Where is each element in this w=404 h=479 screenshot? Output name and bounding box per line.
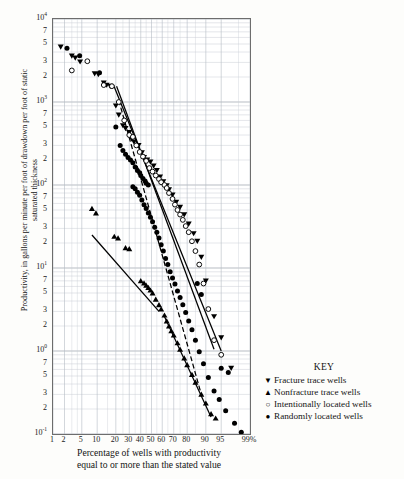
legend: KEY ▼Fracture trace wells▲Nonfracture tr…: [262, 362, 402, 423]
data-point: [201, 281, 206, 286]
legend-item-label: Nonfracture trace wells: [274, 387, 360, 398]
data-point: [109, 84, 114, 89]
legend-title: KEY: [268, 362, 380, 372]
data-point: [219, 352, 224, 357]
data-point: [172, 282, 177, 287]
data-point: [186, 318, 191, 323]
data-point: [118, 143, 123, 148]
x-axis-tick-labels: 1251020304050607080909599%: [52, 435, 249, 447]
data-point: [218, 335, 224, 340]
y-tick-label: 7: [43, 276, 47, 284]
y-tick-label: 5: [43, 39, 47, 47]
data-point: [211, 314, 217, 319]
data-point: [170, 275, 175, 280]
data-point: [189, 327, 194, 332]
data-point: [144, 159, 149, 164]
data-point: [161, 249, 166, 254]
data-point: [206, 307, 211, 312]
data-point: [223, 408, 228, 413]
plot-area: [52, 18, 251, 435]
data-point: [193, 249, 198, 254]
x-tick-label: 5: [79, 435, 83, 444]
data-point: [122, 118, 127, 123]
y-tick-label: 3: [43, 306, 47, 314]
y-tick-label: 5: [43, 288, 47, 296]
legend-items: ▼Fracture trace wells▲Nonfracture trace …: [262, 375, 402, 422]
data-point: [217, 397, 222, 402]
data-point: [113, 124, 118, 129]
x-tick-label: 10: [92, 435, 100, 444]
data-point: [219, 366, 224, 371]
data-point: [168, 269, 173, 274]
x-tick-label: 80: [182, 435, 190, 444]
y-tick-label: 2: [43, 72, 47, 80]
y-tick-label: 104: [36, 14, 47, 22]
data-point: [180, 217, 185, 222]
data-point: [194, 239, 200, 244]
data-point: [130, 134, 135, 139]
data-point: [199, 292, 204, 297]
x-tick-label: 99%: [242, 435, 257, 444]
data-point: [101, 83, 106, 88]
data-point: [77, 59, 83, 64]
data-point: [97, 70, 102, 75]
data-point: [173, 202, 178, 207]
x-tick-label: 40: [136, 435, 144, 444]
data-point: [184, 362, 190, 367]
x-tick-label: 95: [216, 435, 224, 444]
data-point: [186, 230, 191, 235]
data-point: [195, 281, 200, 286]
triangle-up-icon: ▲: [262, 387, 274, 398]
x-tick-label: 2: [62, 435, 66, 444]
x-axis-title-line2: equal to or more than the stated value: [24, 459, 274, 471]
circle-filled-icon: ●: [262, 411, 274, 422]
x-tick-label: 20: [111, 435, 119, 444]
y-tick-label: 2: [43, 155, 47, 163]
productivity-probability-chart: 1047532103753210275321017532100753210-1 …: [0, 0, 404, 479]
data-point: [134, 143, 139, 148]
x-tick-label: 1: [50, 435, 54, 444]
y-tick-label: 3: [43, 223, 47, 231]
y-tick-label: 2: [43, 238, 47, 246]
x-tick-label: 60: [157, 435, 165, 444]
data-point: [58, 45, 64, 50]
data-point: [116, 100, 121, 105]
data-point: [141, 154, 146, 159]
y-tick-label: 100: [36, 346, 47, 354]
data-point: [183, 310, 188, 315]
data-point: [153, 296, 159, 301]
y-tick-label: 7: [43, 27, 47, 35]
data-point: [198, 255, 204, 260]
data-point: [116, 112, 122, 117]
data-point: [190, 239, 195, 244]
data-point: [193, 338, 198, 343]
y-tick-label: 5: [43, 122, 47, 130]
y-tick-label: 7: [43, 110, 47, 118]
y-tick-label: 5: [43, 371, 47, 379]
y-tick-label: 3: [43, 140, 47, 148]
data-point: [164, 318, 170, 323]
data-point: [152, 225, 157, 230]
data-point: [139, 197, 144, 202]
data-point: [232, 421, 237, 426]
data-point: [175, 208, 180, 213]
y-tick-label: 2: [43, 404, 47, 412]
y-tick-label: 3: [43, 389, 47, 397]
data-point: [89, 206, 95, 211]
data-point: [163, 256, 168, 261]
data-point: [148, 215, 153, 220]
data-point: [69, 68, 74, 73]
data-point: [168, 328, 174, 333]
y-tick-label: 5: [43, 205, 47, 213]
y-axis-title: Productivity, in gallons per minute per …: [20, 65, 40, 315]
trend-line: [117, 86, 214, 349]
trend-line: [119, 100, 202, 394]
data-point: [206, 375, 211, 380]
data-point: [164, 186, 169, 191]
data-point: [150, 219, 155, 224]
data-point: [144, 206, 149, 211]
data-point: [161, 312, 167, 317]
data-point: [85, 59, 90, 64]
legend-item: ○Intentionally located wells: [262, 399, 402, 410]
legend-item: ▲Nonfracture trace wells: [262, 387, 402, 398]
